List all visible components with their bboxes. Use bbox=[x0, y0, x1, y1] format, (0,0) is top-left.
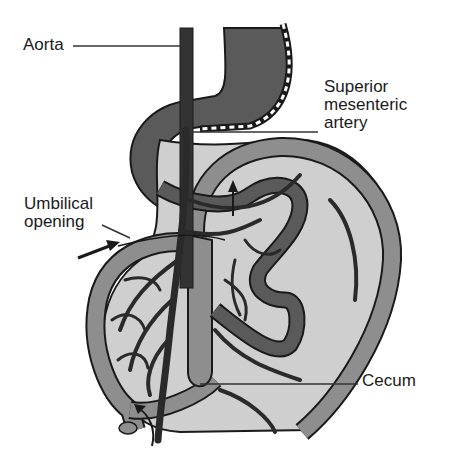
anatomy-illustration bbox=[0, 0, 453, 473]
midgut-rotation-diagram: Aorta Superior mesenteric artery Umbilic… bbox=[0, 0, 453, 473]
umbilical-opening-label: Umbilical opening bbox=[24, 195, 93, 231]
vitelline-duct-stump bbox=[119, 422, 137, 434]
cecum-label: Cecum bbox=[362, 372, 416, 390]
aorta-label: Aorta bbox=[23, 36, 64, 54]
superior-mesenteric-artery-label: Superior mesenteric artery bbox=[324, 78, 407, 132]
umbilical-leader bbox=[102, 225, 130, 238]
